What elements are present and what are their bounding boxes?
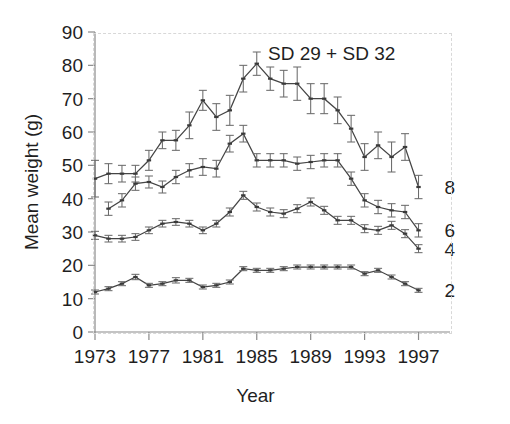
data-point [335, 109, 339, 111]
data-point [403, 146, 407, 148]
data-point [389, 276, 393, 278]
y-tick-label: 40 [62, 189, 83, 210]
data-point [255, 63, 259, 65]
data-point [147, 284, 151, 286]
data-point [133, 236, 137, 238]
data-point [349, 128, 353, 130]
data-point [147, 159, 151, 161]
data-point [187, 169, 191, 171]
data-point [282, 159, 286, 161]
data-point [295, 163, 299, 165]
data-point [268, 211, 272, 213]
data-point [120, 238, 124, 240]
y-tick-label: 80 [62, 55, 83, 76]
series-label-4: 4 [445, 239, 456, 260]
data-point [93, 178, 97, 180]
data-point [389, 156, 393, 158]
data-point [93, 234, 97, 236]
data-point [295, 208, 299, 210]
data-point [201, 166, 205, 168]
data-point [282, 268, 286, 270]
data-point [335, 266, 339, 268]
data-point [214, 116, 218, 118]
data-point [335, 159, 339, 161]
data-point [106, 288, 110, 290]
data-point [282, 213, 286, 215]
data-point [349, 178, 353, 180]
data-point [174, 176, 178, 178]
data-point [389, 209, 393, 211]
x-tick-label: 1981 [182, 346, 224, 367]
data-point [120, 199, 124, 201]
data-point [416, 289, 420, 291]
data-point [403, 283, 407, 285]
y-tick-label: 10 [62, 289, 83, 310]
data-point [187, 279, 191, 281]
data-point [322, 159, 326, 161]
data-point [416, 248, 420, 250]
data-point [403, 211, 407, 213]
data-point [362, 228, 366, 230]
data-point [376, 229, 380, 231]
x-tick-label: 1997 [397, 346, 439, 367]
data-point [376, 269, 380, 271]
series-label-8: 8 [445, 177, 456, 198]
data-point [147, 229, 151, 231]
data-point [214, 168, 218, 170]
data-point [228, 211, 232, 213]
data-point [322, 98, 326, 100]
data-point [322, 266, 326, 268]
data-point [160, 139, 164, 141]
data-point [241, 194, 245, 196]
data-point [376, 144, 380, 146]
y-tick-label: 60 [62, 122, 83, 143]
y-tick-label: 70 [62, 89, 83, 110]
data-point [93, 291, 97, 293]
data-point [376, 206, 380, 208]
series-line-6 [109, 134, 419, 231]
chart-figure: 0102030405060708090197319771981198519891… [0, 0, 510, 424]
x-tick-label: 1993 [343, 346, 385, 367]
data-point [268, 159, 272, 161]
data-point [214, 223, 218, 225]
data-point [335, 219, 339, 221]
y-tick-label: 90 [62, 22, 83, 43]
data-point [214, 284, 218, 286]
data-point [362, 156, 366, 158]
data-point [295, 83, 299, 85]
data-point [416, 229, 420, 231]
chart-canvas: 0102030405060708090197319771981198519891… [0, 0, 510, 424]
series-label-2: 2 [445, 280, 456, 301]
x-tick-label: 1973 [74, 346, 116, 367]
data-point [255, 206, 259, 208]
data-point [349, 266, 353, 268]
data-point [133, 173, 137, 175]
x-tick-label: 1985 [236, 346, 278, 367]
data-point [160, 186, 164, 188]
data-point [255, 269, 259, 271]
series-line-8 [95, 64, 419, 187]
data-point [133, 276, 137, 278]
data-point [174, 221, 178, 223]
data-point [362, 199, 366, 201]
data-point [282, 83, 286, 85]
data-point [160, 223, 164, 225]
data-point [308, 161, 312, 163]
data-point [228, 109, 232, 111]
y-tick-label: 20 [62, 255, 83, 276]
data-point [106, 208, 110, 210]
x-tick-label: 1989 [290, 346, 332, 367]
data-point [308, 266, 312, 268]
data-point [201, 99, 205, 101]
data-point [174, 279, 178, 281]
data-point [147, 181, 151, 183]
data-point [349, 219, 353, 221]
x-tick-label: 1977 [128, 346, 170, 367]
data-point [241, 133, 245, 135]
y-tick-label: 0 [72, 322, 83, 343]
data-point [187, 223, 191, 225]
data-point [133, 183, 137, 185]
y-tick-label: 30 [62, 222, 83, 243]
data-point [106, 238, 110, 240]
data-point [295, 266, 299, 268]
